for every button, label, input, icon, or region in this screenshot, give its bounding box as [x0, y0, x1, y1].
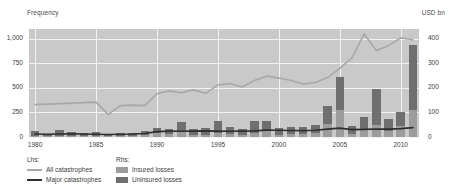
legend-rhs-heading: Rhs: — [116, 157, 182, 164]
legend-item-insured-losses[interactable]: Insured losses — [116, 166, 182, 175]
x-axis-ticks: 1980198519901995200020052010 — [29, 141, 419, 151]
x-axis-tick-label: 2010 — [393, 141, 407, 148]
right-axis-tick-label: 300 — [428, 60, 439, 67]
line-swatch-icon — [27, 179, 42, 182]
left-axis-tick-label: 0 — [19, 134, 23, 141]
gridline-horizontal — [29, 137, 419, 138]
legend-label-uninsured-losses: Uninsured losses — [132, 177, 182, 184]
legend-lhs-heading: Lhs: — [27, 157, 101, 164]
left-axis-title: Frequency — [27, 9, 59, 16]
x-axis-tick-label: 1985 — [89, 141, 103, 148]
legend-group-lhs: Lhs: All catastrophes Major catastrophes — [27, 157, 101, 186]
bar-swatch-icon — [116, 167, 128, 173]
plot-area — [29, 29, 419, 137]
right-axis-title: USD bn — [422, 9, 445, 16]
right-axis-tick-label: 100 — [428, 109, 439, 116]
x-axis-tick-label: 2005 — [333, 141, 347, 148]
line-swatch-icon — [27, 169, 42, 171]
chart-container: Frequency USD bn 02505007501,000 0100200… — [0, 0, 453, 191]
x-axis-tick-label: 2000 — [272, 141, 286, 148]
x-axis-tick-label: 1995 — [211, 141, 225, 148]
legend-label-insured-losses: Insured losses — [132, 167, 174, 174]
right-axis-ticks: 0100200300400 — [423, 29, 453, 137]
right-axis-tick-label: 400 — [428, 35, 439, 42]
x-axis-tick-label: 1980 — [28, 141, 42, 148]
legend-item-major-catastrophes[interactable]: Major catastrophes — [27, 176, 101, 185]
x-axis-tick-label: 1990 — [150, 141, 164, 148]
all-catastrophes-line — [35, 34, 413, 115]
legend-item-uninsured-losses[interactable]: Uninsured losses — [116, 176, 182, 185]
right-axis-tick-label: 0 — [428, 134, 432, 141]
major-catastrophes-line — [35, 128, 413, 135]
legend-label-all-catastrophes: All catastrophes — [46, 167, 92, 174]
legend-label-major-catastrophes: Major catastrophes — [46, 177, 101, 184]
legend: Lhs: All catastrophes Major catastrophes… — [27, 157, 447, 187]
legend-item-all-catastrophes[interactable]: All catastrophes — [27, 166, 101, 175]
left-axis-tick-label: 250 — [12, 109, 23, 116]
legend-group-rhs: Rhs: Insured losses Uninsured losses — [116, 157, 182, 186]
line-series-group — [29, 29, 419, 137]
bar-swatch-icon — [116, 177, 128, 183]
left-axis-tick-label: 1,000 — [7, 35, 23, 42]
right-axis-tick-label: 200 — [428, 84, 439, 91]
left-axis-ticks: 02505007501,000 — [0, 29, 26, 137]
left-axis-tick-label: 750 — [12, 60, 23, 67]
left-axis-tick-label: 500 — [12, 84, 23, 91]
